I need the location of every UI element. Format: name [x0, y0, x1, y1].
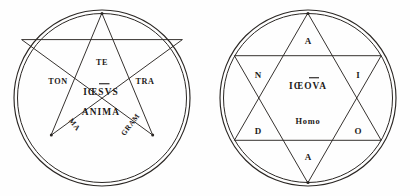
hexagram-center-ieova: IŒOVA — [289, 81, 327, 91]
hexagram-label-a-bottom: A — [305, 152, 312, 162]
hexagram-label-a-top: A — [305, 36, 312, 46]
hexagram-label-i-right: I — [356, 70, 360, 80]
hexagram-vertex-bottom — [306, 181, 309, 184]
macron-bar-iesvs — [99, 83, 110, 84]
star-vertex-lower-left — [50, 134, 53, 137]
hexagram-vertex-top — [306, 12, 309, 15]
hexagram-center-homo: Homo — [295, 117, 320, 126]
pentagram-center-anima: ANIMA — [82, 107, 120, 117]
pentagram-label-ton: TON — [48, 77, 67, 86]
star-vertex-lower-right — [151, 134, 154, 137]
pentagram-label-tra: TRA — [135, 77, 154, 86]
hexagram-label-n-left: N — [255, 70, 262, 80]
pentagram-label-ma: MA — [67, 116, 82, 132]
hexagram-figure: A I O A D N IŒOVA Homo — [205, 0, 410, 196]
star-vertex-top — [101, 12, 104, 15]
pentagram-center-iesvs: IŒSVS — [83, 87, 119, 97]
hexagram-label-o-bottom-right: O — [354, 126, 361, 136]
pentagram-figure: TE TRA TON GRAM MA IŒSVS ANIMA — [0, 0, 205, 196]
macron-bar-ieova — [309, 77, 319, 78]
hexagram-svg: A I O A D N IŒOVA Homo — [205, 0, 410, 196]
hexagram-label-d-bottom-left: D — [255, 126, 262, 136]
pentagram-label-te: TE — [96, 58, 108, 67]
diagram-plate: TE TRA TON GRAM MA IŒSVS ANIMA — [0, 0, 410, 196]
pentagram-svg: TE TRA TON GRAM MA IŒSVS ANIMA — [0, 0, 205, 196]
